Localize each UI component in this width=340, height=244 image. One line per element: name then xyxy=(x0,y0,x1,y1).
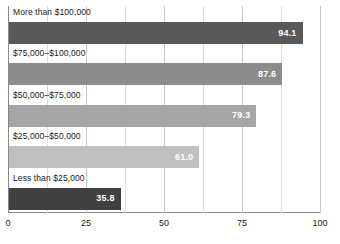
category-label: $75,000–$100,000 xyxy=(13,47,86,61)
bar: 87.6 xyxy=(9,63,282,85)
x-axis-tick-labels: 0255075100 xyxy=(8,218,320,232)
bar: 35.8 xyxy=(9,188,121,210)
bar: 79.3 xyxy=(9,105,256,127)
bar-band: Less than $25,00035.8 xyxy=(9,172,320,213)
category-label: $25,000–$50,000 xyxy=(13,130,81,144)
bar: 61.0 xyxy=(9,146,199,168)
category-label: Less than $25,000 xyxy=(13,172,85,186)
bar-value-label: 94.1 xyxy=(278,29,302,38)
x-tick-label: 75 xyxy=(237,218,247,228)
bar-band: $25,000–$50,00061.0 xyxy=(9,130,320,171)
plot-area: More than $100,00094.1$75,000–$100,00087… xyxy=(8,6,320,213)
bar-band: $75,000–$100,00087.6 xyxy=(9,47,320,88)
x-tick-label: 25 xyxy=(81,218,91,228)
bar-value-label: 87.6 xyxy=(258,70,282,79)
category-label: More than $100,000 xyxy=(13,6,91,20)
bar-band: $50,000–$75,00079.3 xyxy=(9,89,320,130)
bar-band: More than $100,00094.1 xyxy=(9,6,320,47)
bar-chart: More than $100,00094.1$75,000–$100,00087… xyxy=(0,0,340,244)
bar-value-label: 35.8 xyxy=(96,194,120,203)
bar-value-label: 79.3 xyxy=(232,111,256,120)
bar-value-label: 61.0 xyxy=(175,153,199,162)
x-tick-label: 0 xyxy=(5,218,10,228)
bar: 94.1 xyxy=(9,22,303,44)
x-tick-label: 100 xyxy=(312,218,327,228)
category-label: $50,000–$75,000 xyxy=(13,89,81,103)
gridline-major xyxy=(320,6,321,213)
x-tick-label: 50 xyxy=(159,218,169,228)
